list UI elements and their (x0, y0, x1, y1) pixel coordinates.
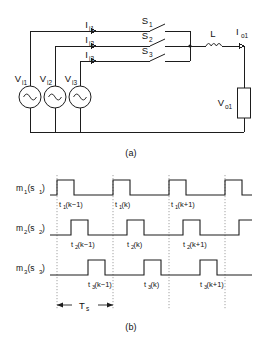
signal-m1-s1: m 1 (s 1 ) t 1 (k−1) t 1 (k) t 1 (16, 180, 252, 210)
source-vi1-label-sub: i1 (22, 79, 27, 86)
t2-kp1-arg: (k+1) (190, 240, 208, 249)
current-label-i1-sub: i1 (89, 25, 94, 32)
output-voltage-label: V o1 (218, 97, 233, 110)
t1-k-arg: (k) (122, 200, 131, 209)
t2-kp1-base: t (183, 240, 186, 249)
switch-label-s3: S 3 (142, 45, 153, 58)
source-vi1: V i1 (15, 73, 41, 132)
switch-label-s3-base: S (142, 45, 148, 56)
circuit-schematic-panel: I i1 I i2 I i3 (0, 0, 262, 170)
current-label-i3-sub: i3 (89, 55, 94, 62)
signal-m1-arg-close: ) (42, 183, 45, 193)
t2-k-arg: (k) (134, 240, 143, 249)
signal-m3-arg-close: ) (42, 263, 45, 273)
output-current-label: I o1 (236, 26, 249, 39)
signal-m1-arg-open: (s (28, 183, 35, 193)
source-vi3-label-base: V (65, 73, 72, 84)
current-label-i1: I i1 (85, 19, 94, 32)
source-vi2: V i2 (40, 73, 66, 132)
source-vi1-label-base: V (15, 73, 22, 84)
switch-label-s1-sub: 1 (149, 21, 153, 28)
time-label-t2-kp1: t 2 (k+1) (183, 240, 207, 250)
t3-km1-arg: (k−1) (95, 280, 113, 289)
output-current-label-sub: o1 (241, 32, 249, 39)
signal-m2-arg-close: ) (42, 223, 45, 233)
signal-m3-s3: m 3 (s 3 ) t 3 (k−1) t 3 (k) t 3 (16, 260, 252, 290)
inductor-label: L (210, 28, 215, 39)
timing-svg: m 1 (s 1 ) t 1 (k−1) t 1 (k) t 1 (0, 165, 262, 339)
caption-a: (a) (0, 148, 262, 158)
t2-km1-base: t (71, 240, 74, 249)
current-label-i3-base: I (85, 49, 88, 60)
signal-m3-label-base: m (16, 263, 23, 273)
time-label-t2-km1: t 2 (k−1) (71, 240, 95, 250)
current-label-i3: I i3 (85, 49, 94, 62)
t1-km1-arg: (k−1) (66, 200, 84, 209)
t2-km1-arg: (k−1) (78, 240, 96, 249)
ts-arrow-right (107, 302, 113, 307)
switch-s1[interactable] (150, 24, 190, 31)
time-label-t3-k: t 3 (k) (144, 280, 160, 290)
output-voltage-label-sub: o1 (225, 103, 233, 110)
t1-km1-base: t (59, 200, 62, 209)
figure-root: I i1 I i2 I i3 (0, 0, 262, 339)
signal-m2-s2: m 2 (s 2 ) t 2 (k−1) t 2 (k) t 2 (16, 220, 252, 250)
t3-k-arg: (k) (151, 280, 160, 289)
switch-s3[interactable] (150, 54, 190, 61)
current-label-i2: I i2 (85, 34, 94, 47)
ts-label-sub: s (86, 305, 90, 312)
t1-kp1-base: t (171, 200, 174, 209)
time-label-t2-k: t 2 (k) (127, 240, 143, 250)
caption-b: (b) (0, 322, 262, 332)
load-resistor (238, 88, 251, 118)
circuit-svg: I i1 I i2 I i3 (0, 0, 262, 170)
current-label-i2-base: I (85, 34, 88, 45)
output-voltage-label-base: V (218, 97, 225, 108)
signal-m1-label-base: m (16, 183, 23, 193)
time-label-t1-kp1: t 1 (k+1) (171, 200, 195, 210)
output-current-label-base: I (236, 26, 239, 37)
time-label-t1-km1: t 1 (k−1) (59, 200, 83, 210)
signal-m2-arg-open: (s (28, 223, 35, 233)
switch-label-s3-sub: 3 (149, 51, 153, 58)
t3-kp1-arg: (k+1) (207, 280, 225, 289)
source-vi2-label-base: V (40, 73, 47, 84)
t1-kp1-arg: (k+1) (178, 200, 196, 209)
switch-s2[interactable] (150, 39, 190, 46)
time-label-t1-k: t 1 (k) (115, 200, 131, 210)
ts-label-base: T (79, 300, 85, 311)
source-vi3-label-sub: i3 (72, 79, 77, 86)
current-label-i1-base: I (85, 19, 88, 30)
t3-kp1-base: t (200, 280, 203, 289)
signal-m3-arg-open: (s (28, 263, 35, 273)
signal-m2-label-base: m (16, 223, 23, 233)
period-dimension-ts: T s (57, 300, 113, 313)
timing-diagram-panel: m 1 (s 1 ) t 1 (k−1) t 1 (k) t 1 (0, 165, 262, 339)
current-label-i2-sub: i2 (89, 40, 94, 47)
time-label-t3-km1: t 3 (k−1) (88, 280, 112, 290)
source-vi3: V i3 (65, 73, 91, 132)
switch-label-s2: S 2 (142, 30, 153, 43)
switch-label-s2-base: S (142, 30, 148, 41)
switch-label-s1-base: S (142, 15, 148, 26)
switch-label-s1: S 1 (142, 15, 153, 28)
t2-k-base: t (127, 240, 130, 249)
t3-km1-base: t (88, 280, 91, 289)
switch-label-s2-sub: 2 (149, 36, 153, 43)
resistor-body (238, 88, 251, 118)
t3-k-base: t (144, 280, 147, 289)
inductor-l: L (190, 28, 240, 46)
source-vi2-label-sub: i2 (47, 79, 52, 86)
t1-k-base: t (115, 200, 118, 209)
ts-arrow-left (57, 302, 63, 307)
time-label-t3-kp1: t 3 (k+1) (200, 280, 224, 290)
